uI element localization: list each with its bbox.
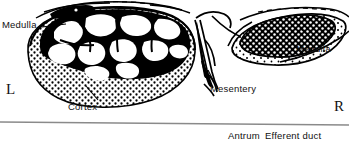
hilum-dot xyxy=(74,8,77,11)
horizontal-rule xyxy=(0,122,349,125)
caption-antrum: Antrum xyxy=(228,131,260,141)
figure-drawing xyxy=(0,0,349,143)
anatomical-figure: Medulla Medulla Cortex Mesentery L R Ant… xyxy=(0,0,349,143)
caption-efferent-duct: Efferent duct xyxy=(265,131,321,141)
right-lymph-node xyxy=(228,8,349,66)
label-left-orientation: L xyxy=(6,82,15,97)
left-lymph-node xyxy=(28,2,195,108)
label-mesentery: Mesentery xyxy=(210,84,256,94)
label-right-orientation: R xyxy=(334,99,344,114)
label-cortex: Cortex xyxy=(68,102,97,112)
label-medulla-left: Medulla xyxy=(2,20,37,30)
label-medulla-right: Medulla xyxy=(296,44,331,54)
